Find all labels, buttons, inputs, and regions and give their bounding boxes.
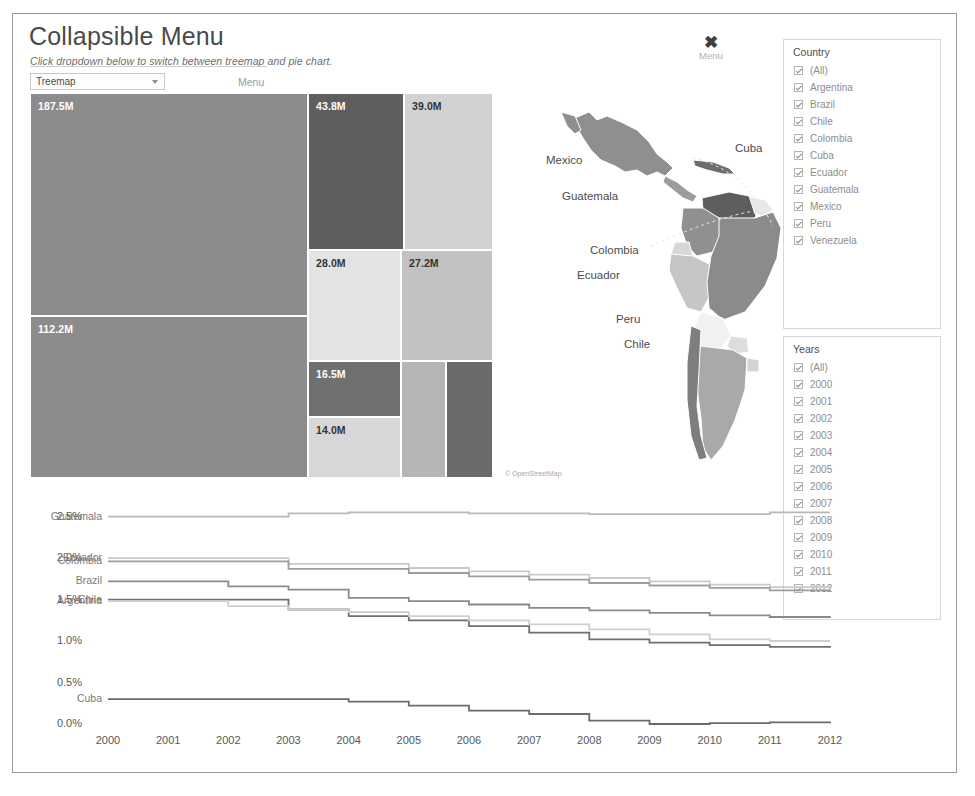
filter-row[interactable]: Peru [794, 215, 831, 232]
dropdown-caption: Menu [238, 76, 264, 88]
filter-row[interactable]: Cuba [794, 147, 834, 164]
checkbox-checked-icon[interactable] [794, 236, 803, 245]
filter-row-label: Ecuador [810, 167, 847, 178]
checkbox-checked-icon[interactable] [794, 380, 803, 389]
chevron-down-icon [152, 80, 158, 84]
checkbox-checked-icon[interactable] [794, 83, 803, 92]
treemap-tile[interactable]: 39.0M [404, 93, 493, 250]
chart-type-dropdown[interactable]: Treemap [30, 73, 165, 90]
treemap-tile[interactable]: 43.8M [308, 93, 404, 250]
line-series-group [30, 484, 940, 734]
checkbox-checked-icon[interactable] [794, 185, 803, 194]
map-label-cuba: Cuba [735, 142, 763, 154]
filter-row[interactable]: Argentina [794, 79, 853, 96]
filter-row-label: Chile [810, 116, 833, 127]
filter-row[interactable]: Guatemala [794, 181, 859, 198]
checkbox-checked-icon[interactable] [794, 66, 803, 75]
filter-row[interactable]: Venezuela [794, 232, 857, 249]
filter-row[interactable]: Brazil [794, 96, 835, 113]
treemap-tile[interactable]: 28.0M [308, 250, 401, 361]
line-chart[interactable]: YoY Pop Growth Change 0.0%0.5%1.0%1.5%2.… [30, 484, 940, 762]
filter-row[interactable]: 2002 [794, 410, 832, 427]
checkbox-checked-icon[interactable] [794, 168, 803, 177]
filter-row[interactable]: (All) [794, 62, 828, 79]
x-axis-tick: 2002 [203, 734, 253, 746]
treemap-tile[interactable] [401, 361, 446, 478]
x-axis-tick: 2007 [504, 734, 554, 746]
x-axis-tick: 2000 [83, 734, 133, 746]
filter-row-label: Colombia [810, 133, 852, 144]
map-label-colombia: Colombia [590, 244, 639, 256]
treemap-tile[interactable]: 16.5M [308, 361, 401, 417]
filter-row-label: Mexico [810, 201, 842, 212]
filter-row[interactable]: Mexico [794, 198, 842, 215]
x-axis-tick: 2001 [143, 734, 193, 746]
filter-row[interactable]: 2003 [794, 427, 832, 444]
x-axis-tick: 2006 [444, 734, 494, 746]
treemap-tile[interactable]: 112.2M [30, 316, 308, 478]
filter-row-label: 2002 [810, 413, 832, 424]
map-label-ecuador: Ecuador [577, 269, 620, 281]
treemap-tile-label: 39.0M [412, 100, 442, 112]
checkbox-checked-icon[interactable] [794, 465, 803, 474]
filter-row[interactable]: 2000 [794, 376, 832, 393]
treemap-tile-label: 27.2M [409, 257, 439, 269]
filter-row-label: (All) [810, 65, 828, 76]
line-series [108, 512, 830, 516]
close-x-icon: ✖ [684, 36, 738, 49]
treemap-tile[interactable]: 187.5M [30, 93, 308, 316]
checkbox-checked-icon[interactable] [794, 219, 803, 228]
filter-row-label: Argentina [810, 82, 853, 93]
filter-row[interactable]: Chile [794, 113, 833, 130]
filter-row[interactable]: 2004 [794, 444, 832, 461]
dropdown-underline [30, 66, 267, 67]
filter-row-label: Peru [810, 218, 831, 229]
treemap-tile[interactable]: 27.2M [401, 250, 493, 361]
checkbox-checked-icon[interactable] [794, 448, 803, 457]
treemap-tile-label: 28.0M [316, 257, 346, 269]
choropleth-map[interactable]: MexicoCubaGuatemalaColombiaEcuadorPeruCh… [497, 50, 782, 480]
checkbox-checked-icon[interactable] [794, 431, 803, 440]
line-series [108, 601, 830, 641]
map-label-guatemala: Guatemala [562, 190, 618, 202]
treemap-tile-label: 16.5M [316, 368, 346, 380]
x-axis-tick: 2012 [805, 734, 855, 746]
filter-row[interactable]: 2005 [794, 461, 832, 478]
filter-row[interactable]: 2001 [794, 393, 832, 410]
line-series [108, 699, 830, 724]
filter-row[interactable]: Colombia [794, 130, 852, 147]
map-attribution: © OpenStreetMap [505, 470, 562, 477]
treemap-tile[interactable]: 14.0M [308, 417, 401, 478]
checkbox-checked-icon[interactable] [794, 397, 803, 406]
filter-row-label: 2003 [810, 430, 832, 441]
filter-row[interactable]: Ecuador [794, 164, 847, 181]
checkbox-checked-icon[interactable] [794, 151, 803, 160]
checkbox-checked-icon[interactable] [794, 100, 803, 109]
treemap-chart[interactable]: 187.5M112.2M43.8M39.0M28.0M27.2M16.5M14.… [30, 93, 493, 478]
page-title: Collapsible Menu [29, 22, 224, 51]
filter-row-label: (All) [810, 362, 828, 373]
checkbox-checked-icon[interactable] [794, 202, 803, 211]
filter-row-label: Venezuela [810, 235, 857, 246]
checkbox-checked-icon[interactable] [794, 134, 803, 143]
map-label-mexico: Mexico [546, 154, 582, 166]
checkbox-checked-icon[interactable] [794, 414, 803, 423]
years-filter-title: Years [793, 343, 819, 355]
treemap-tile-label: 187.5M [38, 100, 74, 112]
filter-row-label: 2004 [810, 447, 832, 458]
treemap-tile[interactable] [446, 361, 493, 478]
checkbox-checked-icon[interactable] [794, 117, 803, 126]
filter-row-label: 2001 [810, 396, 832, 407]
treemap-tile-label: 43.8M [316, 100, 346, 112]
x-axis-tick: 2004 [324, 734, 374, 746]
line-series [108, 561, 830, 591]
x-axis-tick: 2009 [625, 734, 675, 746]
chart-type-dropdown-value: Treemap [36, 76, 76, 87]
filter-row-label: Cuba [810, 150, 834, 161]
map-label-chile: Chile [624, 338, 650, 350]
country-filter-title: Country [793, 46, 830, 58]
filter-row[interactable]: (All) [794, 359, 828, 376]
map-shapes [497, 50, 782, 480]
treemap-tile-label: 14.0M [316, 424, 346, 436]
checkbox-checked-icon[interactable] [794, 363, 803, 372]
